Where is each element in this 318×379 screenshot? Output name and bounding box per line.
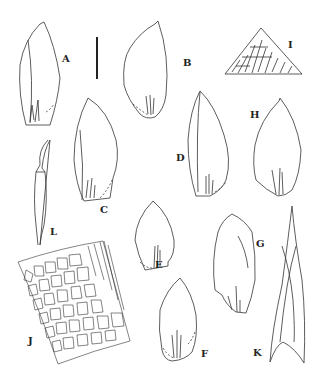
label-k: K <box>253 348 262 358</box>
leaf-b-drawing <box>124 21 167 118</box>
cells-i-drawing <box>225 28 302 74</box>
label-b: B <box>183 58 191 68</box>
label-d: D <box>176 153 185 163</box>
leaf-f-drawing <box>159 278 196 361</box>
label-h: H <box>250 110 259 120</box>
leaf-c-drawing <box>74 98 117 201</box>
leaf-d-drawing <box>188 91 229 196</box>
leaf-k-drawing <box>270 206 305 363</box>
label-c: C <box>100 205 108 215</box>
label-e: E <box>155 260 163 270</box>
leaf-g-drawing <box>214 214 256 313</box>
label-l: L <box>50 227 57 237</box>
label-i: I <box>288 40 293 50</box>
leaf-a-drawing <box>20 22 60 125</box>
calyptra-l-drawing <box>35 140 51 245</box>
cells-j-drawing <box>18 241 130 364</box>
leaf-h-drawing <box>254 98 301 196</box>
label-j: J <box>28 336 33 346</box>
label-f: F <box>201 349 208 359</box>
label-g: G <box>256 239 265 249</box>
label-a: A <box>62 54 70 64</box>
plate-drawing <box>0 0 318 379</box>
